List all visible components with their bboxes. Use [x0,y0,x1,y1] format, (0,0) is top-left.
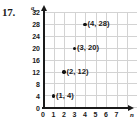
y-tick-label: 28 [20,21,40,28]
y-tick-label: 12 [20,69,40,76]
y-axis-line [43,10,45,109]
gridline-horizontal [43,72,137,73]
x-tick-label: 0 [38,111,48,118]
gridline-horizontal [43,60,137,61]
x-axis-label: n [130,112,134,119]
y-tick-label: 0 [20,105,40,112]
x-tick-label: 7 [112,111,122,118]
y-tick-label: 4 [20,93,40,100]
y-tick-label: 20 [20,45,40,52]
x-tick-label: 2 [59,111,69,118]
x-tick-label: 3 [70,111,80,118]
x-axis-line [42,107,130,109]
y-tick-label: 16 [20,57,40,64]
gridline-horizontal [43,12,137,13]
y-tick-label: 24 [20,33,40,40]
data-point [83,23,86,26]
y-axis-ticks: 0 4 8 12 16 20 24 28 32 [18,0,40,124]
x-tick-label: 5 [91,111,101,118]
data-point [52,94,55,97]
figure-container: 17. an n 0 4 8 12 16 20 [0,0,137,124]
gridline-horizontal [43,36,137,37]
data-point-label: (3, 20) [77,44,99,52]
x-tick-label: 4 [80,111,90,118]
data-point-label: (4, 28) [88,20,110,28]
problem-number: 17. [2,6,15,18]
y-axis-arrow-icon [41,5,47,11]
x-tick-label: 1 [49,111,59,118]
gridline-horizontal [43,83,137,84]
x-tick-label: 6 [101,111,111,118]
y-tick-label: 32 [20,9,40,16]
data-point-label: (2, 12) [67,68,89,76]
y-tick-label: 8 [20,81,40,88]
data-point-label: (1, 4) [56,92,74,100]
data-point [62,70,65,73]
